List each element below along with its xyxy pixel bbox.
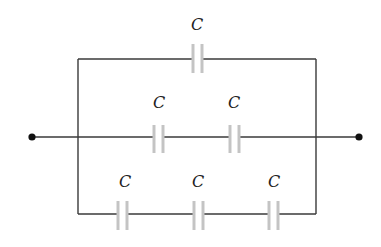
capacitor-middle-2: C: [228, 93, 240, 153]
capacitor-label: C: [153, 93, 165, 112]
capacitor-label: C: [191, 15, 203, 34]
capacitor-circuit-diagram: C C C C C C: [0, 0, 381, 247]
capacitor-label: C: [119, 172, 131, 191]
capacitor-label: C: [268, 172, 280, 191]
capacitor-label: C: [192, 172, 204, 191]
right-terminal-dot: [355, 133, 362, 140]
capacitor-top: C: [191, 15, 203, 73]
capacitor-middle-1: C: [153, 93, 165, 153]
capacitor-bottom-3: C: [268, 172, 280, 230]
left-terminal-dot: [28, 133, 35, 140]
capacitor-label: C: [228, 93, 240, 112]
capacitor-bottom-1: C: [118, 172, 131, 230]
capacitor-bottom-2: C: [192, 172, 204, 230]
